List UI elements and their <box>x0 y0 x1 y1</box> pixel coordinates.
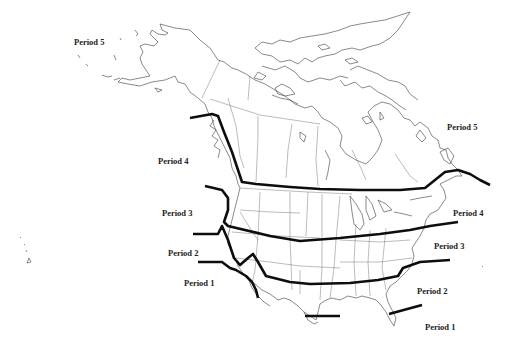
label-east-period-3: Period 3 <box>434 242 464 251</box>
arctic-islands-outline <box>254 12 418 110</box>
boundary-1-2-florida <box>389 305 422 314</box>
hawaii-outline <box>20 237 483 267</box>
label-west-period-3: Period 3 <box>162 209 192 218</box>
canada-outline <box>210 76 462 186</box>
label-east-period-4: Period 4 <box>453 209 483 218</box>
label-west-period-4: Period 4 <box>158 157 188 166</box>
north-america-map <box>0 0 515 349</box>
label-alaska-period-5: Period 5 <box>74 38 104 47</box>
label-west-period-1: Period 1 <box>184 279 214 288</box>
pacific-coast-outline <box>205 104 248 278</box>
label-east-period-5: Period 5 <box>447 123 477 132</box>
alaska-outline <box>78 24 255 104</box>
label-west-period-2: Period 2 <box>168 249 198 258</box>
boundary-4-5 <box>190 114 490 190</box>
label-east-period-2: Period 2 <box>417 287 447 296</box>
map-figure: Period 5 Period 5 Period 4 Period 4 Peri… <box>0 0 515 349</box>
label-east-period-1: Period 1 <box>425 323 455 332</box>
